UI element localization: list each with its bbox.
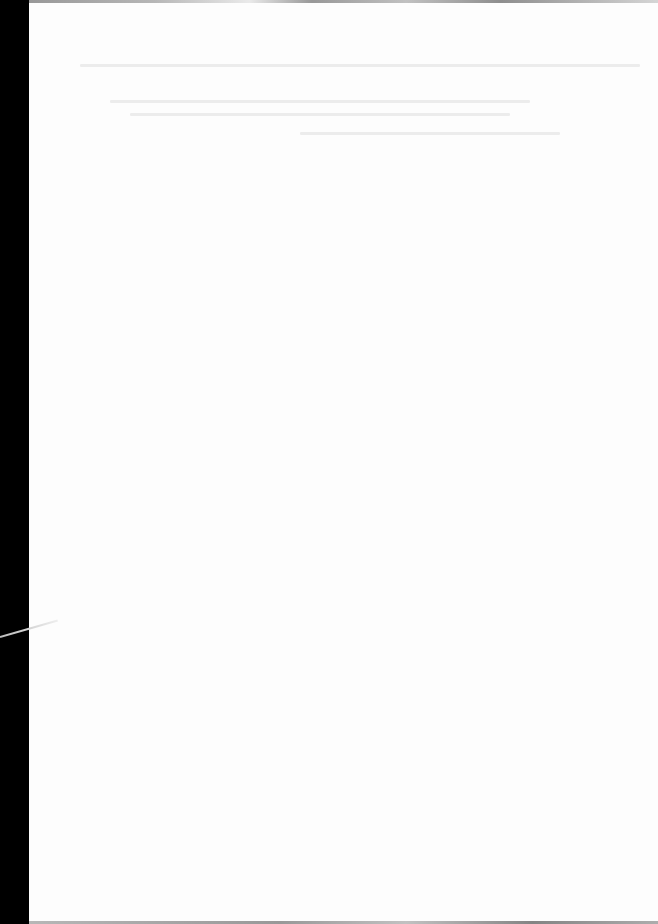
- document-page: [29, 0, 658, 924]
- bleed-line: [300, 132, 560, 135]
- bleed-line: [80, 64, 640, 67]
- bleed-line: [110, 100, 530, 103]
- bleed-line: [130, 113, 510, 116]
- page-top-edge: [29, 0, 658, 3]
